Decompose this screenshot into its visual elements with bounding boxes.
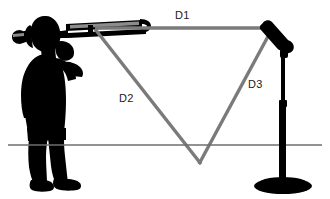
label-d1: D1 [175,10,189,21]
path-line-d3 [199,29,272,164]
diagram-canvas: D1 D2 D3 [0,0,330,199]
path-line-d2 [95,29,201,164]
label-d2: D2 [119,93,133,104]
trombone-player-silhouette [21,16,83,192]
diagram-graphics [0,0,330,199]
label-d3: D3 [248,79,262,90]
